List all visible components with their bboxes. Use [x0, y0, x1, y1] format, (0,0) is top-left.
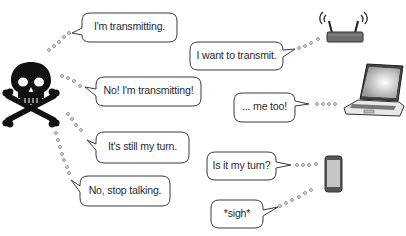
skull-crossbones-icon [2, 62, 59, 127]
bubble-text-phone-1: Is it my turn? [210, 159, 273, 171]
bubble-text-phone-2: *sigh* [213, 207, 261, 219]
bubble-text-laptop-1: ... me too! [236, 100, 292, 112]
laptop-icon [344, 64, 404, 116]
diagram-canvas: I'm transmitting. I want to transmit. No… [0, 0, 406, 236]
bubble-text-skull-3: It's still my turn. [100, 140, 186, 152]
smartphone-icon [325, 156, 342, 192]
bubble-text-skull-4: No, stop talking. [84, 184, 167, 196]
wireless-router-icon [320, 12, 368, 42]
bubble-text-skull-1: I'm transmitting. [86, 20, 173, 32]
bubble-text-skull-2: No! I'm transmitting! [100, 84, 197, 96]
bubble-text-router-1: I want to transmit. [194, 49, 280, 61]
